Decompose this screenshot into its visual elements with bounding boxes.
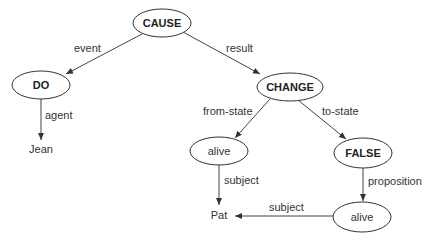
node-jean: Jean <box>29 143 53 155</box>
edge-label-event: event <box>74 42 101 54</box>
edge-labels: event result agent from-state to-state s… <box>45 42 422 213</box>
node-alive-left-label: alive <box>208 145 231 157</box>
node-do: DO <box>12 71 70 99</box>
node-cause: CAUSE <box>133 9 191 37</box>
node-change: CHANGE <box>257 73 323 101</box>
edge-event <box>66 34 142 74</box>
edge-label-to-state: to-state <box>322 105 359 117</box>
node-jean-label: Jean <box>29 143 53 155</box>
node-false: FALSE <box>334 138 392 168</box>
node-alive-right: alive <box>333 202 391 232</box>
node-pat: Pat <box>211 209 228 221</box>
node-false-label: FALSE <box>345 147 380 159</box>
node-do-label: DO <box>33 79 50 91</box>
edge-label-result: result <box>226 42 253 54</box>
node-alive-right-label: alive <box>351 211 374 223</box>
node-alive-left: alive <box>190 137 248 165</box>
node-cause-label: CAUSE <box>143 17 182 29</box>
edges <box>41 32 363 216</box>
edge-label-subject-2: subject <box>269 201 304 213</box>
diagram-canvas: event result agent from-state to-state s… <box>0 0 431 240</box>
node-change-label: CHANGE <box>266 81 314 93</box>
edge-label-proposition: proposition <box>368 175 422 187</box>
edge-label-agent: agent <box>45 109 73 121</box>
edge-label-from-state: from-state <box>203 105 253 117</box>
node-pat-label: Pat <box>211 209 228 221</box>
edge-label-subject-1: subject <box>224 174 259 186</box>
